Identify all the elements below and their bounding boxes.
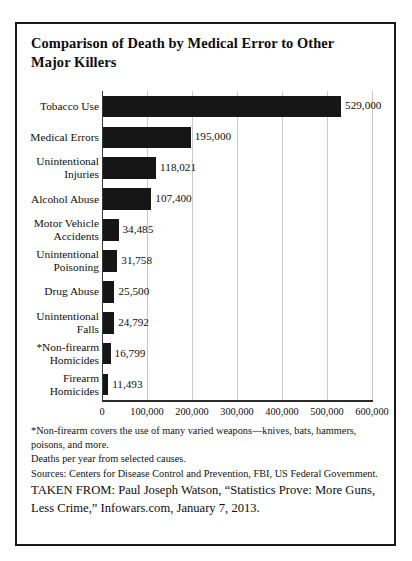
bar-value-label: 107,400 bbox=[155, 192, 191, 204]
bar-category-label: Motor VehicleAccidents bbox=[0, 217, 99, 243]
footnote-deaths-per-year: Deaths per year from selected causes. bbox=[31, 452, 381, 466]
x-axis-line bbox=[102, 400, 373, 402]
bar-value-label: 31,758 bbox=[121, 254, 152, 266]
bar-category-label: Medical Errors bbox=[0, 131, 99, 144]
bar-value-label: 24,792 bbox=[118, 316, 149, 328]
figure-frame: Comparison of Death by Medical Error to … bbox=[15, 22, 396, 546]
bar bbox=[103, 312, 114, 334]
bar bbox=[103, 281, 114, 303]
bar bbox=[103, 219, 119, 241]
bar-value-label: 34,485 bbox=[123, 223, 154, 235]
gridline bbox=[192, 91, 193, 400]
bar-category-label: Drug Abuse bbox=[0, 285, 99, 298]
bar-value-label: 11,493 bbox=[112, 378, 142, 390]
footnote-sources: Sources: Centers for Disease Control and… bbox=[31, 467, 381, 481]
bar-category-label: *Non-firearmHomicides bbox=[0, 341, 99, 367]
x-tick-label: 400,000 bbox=[265, 406, 298, 417]
gridline bbox=[237, 91, 238, 400]
bar bbox=[103, 343, 111, 365]
x-tick-label: 0 bbox=[99, 406, 104, 417]
bar bbox=[103, 188, 151, 210]
bar-value-label: 195,000 bbox=[195, 130, 231, 142]
bar bbox=[103, 157, 156, 179]
bar-category-label: FirearmHomicides bbox=[0, 372, 99, 398]
gridline bbox=[282, 91, 283, 400]
bar-value-label: 25,500 bbox=[118, 285, 149, 297]
x-tick-label: 500,000 bbox=[310, 406, 343, 417]
bar-category-label: UnintentionalFalls bbox=[0, 310, 99, 336]
bar-category-label: Alcohol Abuse bbox=[0, 193, 99, 206]
bar-value-label: 529,000 bbox=[345, 99, 381, 111]
gridline bbox=[372, 91, 373, 400]
bar-category-label: UnintentionalPoisoning bbox=[0, 248, 99, 274]
bar-value-label: 16,799 bbox=[115, 347, 146, 359]
footnote-nonfirearm: *Non-firearm covers the use of many vari… bbox=[31, 424, 381, 452]
gridline bbox=[327, 91, 328, 400]
x-tick-label: 600,000 bbox=[355, 406, 388, 417]
x-tick-label: 200,000 bbox=[175, 406, 208, 417]
bar bbox=[103, 96, 341, 118]
x-tick-label: 300,000 bbox=[220, 406, 253, 417]
attribution-text: TAKEN FROM: Paul Joseph Watson, “Statist… bbox=[31, 482, 383, 518]
bar-category-label: UnintentionalInjuries bbox=[0, 155, 99, 181]
bar bbox=[103, 250, 117, 272]
bar-category-label: Tobacco Use bbox=[0, 100, 99, 113]
x-tick-label: 100,000 bbox=[130, 406, 163, 417]
footnotes: *Non-firearm covers the use of many vari… bbox=[31, 424, 381, 481]
bar bbox=[103, 374, 108, 396]
bar bbox=[103, 127, 191, 149]
page-title: Comparison of Death by Medical Error to … bbox=[31, 34, 361, 72]
bar-value-label: 118,021 bbox=[160, 161, 196, 173]
bar-chart: Tobacco Use529,000Medical Errors195,000U… bbox=[17, 86, 394, 438]
